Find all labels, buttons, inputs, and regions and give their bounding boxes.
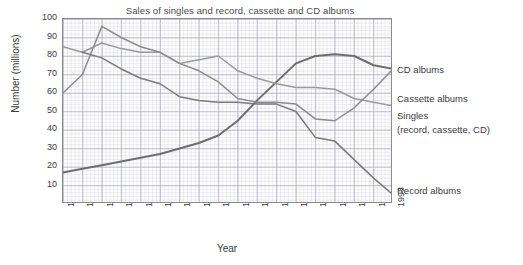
y-tick-60: 60 <box>31 86 57 96</box>
series-line-singles <box>63 26 392 120</box>
series-label-cassette: Cassette albums <box>397 93 468 105</box>
y-tick-70: 70 <box>31 68 57 78</box>
series-lines <box>63 19 392 203</box>
y-axis-title: Number (millions) <box>10 19 21 129</box>
chart-title: Sales of singles and record, cassette an… <box>95 5 385 16</box>
y-tick-20: 20 <box>31 160 57 170</box>
y-tick-10: 10 <box>31 179 57 189</box>
plot-area <box>62 18 392 203</box>
y-tick-30: 30 <box>31 142 57 152</box>
chart-root: Sales of singles and record, cassette an… <box>0 0 523 265</box>
series-label-cd: CD albums <box>397 64 444 76</box>
y-tick-50: 50 <box>31 105 57 115</box>
y-tick-90: 90 <box>31 31 57 41</box>
series-label-singles: Singles <box>397 110 428 122</box>
series-line-record <box>82 52 392 194</box>
x-axis-title: Year <box>62 243 392 254</box>
series-label-singles-sub: (record, cassette, CD) <box>397 124 490 136</box>
y-tick-40: 40 <box>31 123 57 133</box>
series-label-record: Record albums <box>397 185 461 197</box>
series-line-cd <box>63 54 392 172</box>
y-tick-80: 80 <box>31 49 57 59</box>
y-tick-100: 100 <box>31 12 57 22</box>
